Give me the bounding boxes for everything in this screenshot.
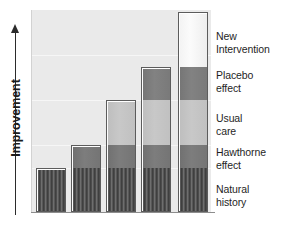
bar-hilite-top: [106, 100, 136, 102]
bar-segment-natural-history[interactable]: [36, 168, 66, 212]
x-axis-baseline: [31, 212, 215, 213]
bar-segment-placebo-effect[interactable]: [141, 67, 171, 100]
y-axis: Improvement: [0, 0, 32, 239]
y-axis-title: Improvement: [6, 58, 26, 178]
bar-hilite-left: [141, 67, 143, 212]
bar-3[interactable]: [106, 100, 136, 212]
bar-edge-right: [100, 145, 101, 212]
label-line-1: Hawthorne: [216, 146, 282, 159]
bar-segment-new-intervention[interactable]: [178, 12, 208, 67]
bar-hilite-left: [178, 12, 180, 212]
bar-hilite-top: [36, 168, 66, 170]
bar-hilite-left: [71, 145, 73, 212]
label-new-intervention: NewIntervention: [216, 30, 282, 55]
label-line-1: Usual: [216, 112, 282, 125]
label-line-2: Intervention: [216, 43, 282, 56]
bar-segment-hawthorne-effect[interactable]: [106, 145, 136, 168]
bar-hilite-top: [141, 67, 171, 69]
bar-hilite-left: [36, 168, 38, 212]
bar-hilite-left: [106, 100, 108, 212]
label-line-2: history: [216, 196, 282, 209]
label-line-2: care: [216, 125, 282, 138]
bar-segment-hawthorne-effect[interactable]: [71, 145, 101, 168]
bar-segment-natural-history[interactable]: [178, 168, 208, 212]
label-line-1: Natural: [216, 183, 282, 196]
label-usual-care: Usualcare: [216, 112, 282, 137]
bar-segment-usual-care[interactable]: [178, 100, 208, 145]
bar-segment-natural-history[interactable]: [71, 168, 101, 212]
bar-segment-usual-care[interactable]: [141, 100, 171, 145]
bar-2[interactable]: [71, 145, 101, 212]
label-line-1: New: [216, 30, 282, 43]
bar-5[interactable]: [178, 12, 208, 212]
bar-edge-right: [135, 100, 136, 212]
segment-label-list: NewInterventionPlaceboeffectUsualcareHaw…: [216, 0, 282, 239]
bar-edge-right: [65, 168, 66, 212]
improvement-stacked-bar-figure: Improvement NewInterventionPlaceboeffect…: [0, 0, 282, 239]
label-line-1: Placebo: [216, 69, 282, 82]
bar-segment-hawthorne-effect[interactable]: [178, 145, 208, 168]
label-hawthorne-effect: Hawthorneeffect: [216, 146, 282, 171]
bar-segment-placebo-effect[interactable]: [178, 67, 208, 100]
label-natural-history: Naturalhistory: [216, 183, 282, 208]
bar-hilite-top: [71, 145, 101, 147]
label-line-2: effect: [216, 82, 282, 95]
bar-segment-usual-care[interactable]: [106, 100, 136, 145]
bar-1[interactable]: [36, 168, 66, 212]
label-line-2: effect: [216, 159, 282, 172]
label-placebo-effect: Placeboeffect: [216, 69, 282, 94]
bar-segment-natural-history[interactable]: [106, 168, 136, 212]
bar-edge-right: [207, 12, 208, 212]
bar-segment-natural-history[interactable]: [141, 168, 171, 212]
bar-edge-right: [170, 67, 171, 212]
bar-segment-hawthorne-effect[interactable]: [141, 145, 171, 168]
plot-area: [31, 10, 211, 212]
bar-hilite-top: [178, 12, 208, 14]
bar-4[interactable]: [141, 67, 171, 212]
